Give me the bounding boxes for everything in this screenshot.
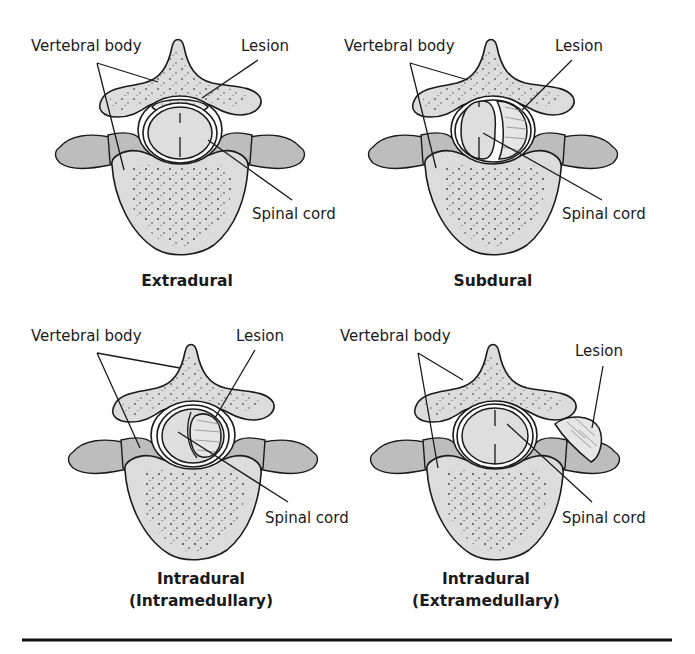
label-lesion: Lesion [241, 37, 289, 55]
label-vertebral-body: Vertebral body [31, 327, 142, 345]
label-vertebral-body: Vertebral body [31, 37, 142, 55]
label-lesion: Lesion [575, 342, 623, 360]
spinal-lesion-diagram: Vertebral body Lesion Spinal cord Extrad… [0, 0, 695, 654]
label-lesion: Lesion [555, 37, 603, 55]
label-spinal-cord: Spinal cord [562, 205, 646, 223]
caption-extradural: Extradural [141, 272, 233, 290]
panel-extradural [56, 37, 305, 257]
caption-intradural-line1: Intradural [442, 570, 530, 588]
label-spinal-cord: Spinal cord [252, 205, 336, 223]
label-vertebral-body: Vertebral body [344, 37, 455, 55]
caption-intramedullary-line2: (Intramedullary) [129, 592, 273, 610]
caption-extramedullary-line2: (Extramedullary) [412, 592, 560, 610]
panel-extramedullary [371, 342, 620, 562]
spinal-cord-shape [461, 101, 495, 159]
label-spinal-cord: Spinal cord [562, 509, 646, 527]
caption-subdural: Subdural [454, 272, 533, 290]
label-spinal-cord: Spinal cord [265, 509, 349, 527]
label-lesion: Lesion [236, 327, 284, 345]
panel-intramedullary [69, 342, 318, 562]
caption-intradural-line1: Intradural [157, 570, 245, 588]
panel-subdural [369, 37, 618, 257]
label-vertebral-body: Vertebral body [340, 327, 451, 345]
